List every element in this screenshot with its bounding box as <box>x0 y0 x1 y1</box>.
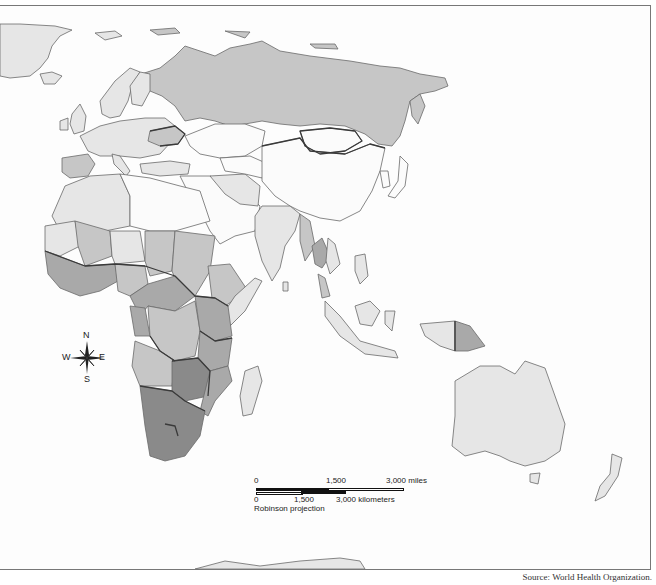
papua-new-guinea <box>455 321 485 351</box>
severnaya-zemlya <box>225 31 250 38</box>
madagascar <box>240 366 262 416</box>
kazakhstan <box>185 124 265 158</box>
india <box>255 206 300 281</box>
map-frame: N W E S 0 1,500 3,000 miles 0 1,500 3,00… <box>0 5 651 570</box>
iceland <box>40 72 62 84</box>
australia <box>452 361 565 466</box>
turkey <box>140 161 190 176</box>
borneo <box>355 301 380 326</box>
ireland <box>60 118 68 130</box>
tasmania <box>530 473 540 484</box>
niger <box>110 231 145 264</box>
sulawesi <box>385 311 395 331</box>
compass-star-icon <box>62 330 116 388</box>
projection-label: Robinson projection <box>254 504 325 513</box>
myanmar <box>300 214 315 261</box>
scale-miles-3000: 3,000 miles <box>386 476 427 485</box>
sri-lanka <box>283 282 288 291</box>
mauritania-niger <box>45 221 80 256</box>
scale-km-3000: 3,000 kilometers <box>336 495 395 504</box>
united-kingdom <box>70 104 86 134</box>
italy <box>112 154 130 176</box>
source-caption: Source: World Health Organization. <box>523 572 652 582</box>
malaysia <box>318 274 330 298</box>
spain-portugal <box>62 154 95 178</box>
korea <box>380 171 390 188</box>
new-zealand <box>595 454 622 501</box>
greenland <box>0 24 72 78</box>
philippines <box>355 254 368 284</box>
scale-km-0: 0 <box>254 495 258 504</box>
scale-miles-0: 0 <box>254 476 258 485</box>
scale-miles-1500: 1,500 <box>326 476 346 485</box>
franz-josef-land <box>150 28 180 35</box>
russia <box>135 41 448 146</box>
scale-km-bar-2 <box>301 491 346 494</box>
vietnam <box>326 238 340 274</box>
scale-bar: 0 1,500 3,000 miles 0 1,500 3,000 kilome… <box>254 476 424 526</box>
antarctica <box>195 558 365 569</box>
japan <box>388 156 408 198</box>
scale-km-1500: 1,500 <box>294 495 314 504</box>
gabon-congo <box>130 306 150 336</box>
compass-rose: N W E S <box>62 330 116 388</box>
new-siberian-islands <box>310 44 338 49</box>
papua-indonesia <box>420 321 455 351</box>
svalbard <box>95 31 122 40</box>
chad <box>145 231 175 276</box>
